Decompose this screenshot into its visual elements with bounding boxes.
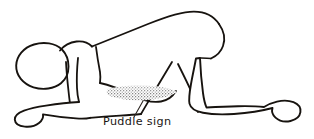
neck <box>60 41 92 50</box>
puddle-sign-figure: Puddle sign <box>0 0 314 139</box>
forearm <box>15 102 90 127</box>
puddle-sign-caption: Puddle sign <box>103 115 171 128</box>
back <box>92 12 219 47</box>
far-leg <box>189 58 300 121</box>
buttock <box>211 24 224 59</box>
hip-connector <box>200 58 211 59</box>
chest <box>96 47 100 83</box>
figure-canvas: Puddle sign <box>0 0 314 139</box>
